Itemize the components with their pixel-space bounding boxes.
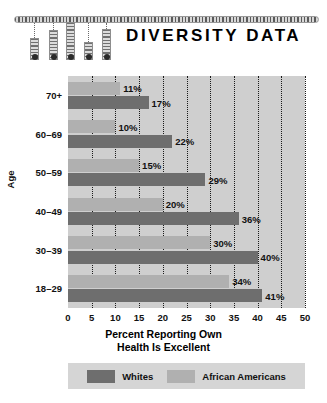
x-axis-tick-label: 35 [224, 312, 244, 323]
gridline [281, 76, 282, 308]
bar-whites [68, 96, 149, 109]
bar-value-label: 41% [265, 291, 284, 302]
bar-african-americans [68, 236, 210, 249]
gridline [305, 76, 306, 308]
x-axis-tick-label: 0 [58, 312, 78, 323]
x-axis-tick-label: 30 [200, 312, 220, 323]
bar-whites [68, 289, 262, 302]
decoration-dot [104, 54, 110, 60]
legend-swatch [167, 370, 195, 383]
bar-whites [68, 135, 172, 148]
y-axis-category-label: 40–49 [36, 206, 62, 217]
bar-value-label: 30% [213, 238, 232, 249]
y-axis-category-label: 30–39 [36, 245, 62, 256]
bar-african-americans [68, 120, 115, 133]
plot-area: 11%17%10%22%15%29%20%36%30%40%34%41% [68, 76, 305, 308]
gridline [258, 76, 259, 308]
decoration-dot [51, 54, 57, 60]
decoration-drop-line [53, 23, 55, 30]
chart-title-line: Health Is Excellent [0, 341, 327, 354]
chart-title: Percent Reporting OwnHealth Is Excellent [0, 328, 327, 353]
x-axis-tick-label: 20 [153, 312, 173, 323]
bar-value-label: 10% [118, 122, 137, 133]
gridline [92, 76, 93, 308]
bar-value-label: 40% [261, 252, 280, 263]
bar-african-americans [68, 82, 120, 95]
x-axis-tick-label: 50 [295, 312, 315, 323]
bar-african-americans [68, 198, 163, 211]
y-axis-category-label: 60–69 [36, 129, 62, 140]
y-axis-category-label: 18–29 [36, 283, 62, 294]
legend-swatch [87, 370, 115, 383]
gridline [115, 76, 116, 308]
y-axis-title: Age [5, 160, 16, 200]
bar-value-label: 22% [175, 136, 194, 147]
page-title: DIVERSITY DATA [126, 26, 301, 46]
decoration-drop-line [34, 23, 36, 38]
bar-value-label: 36% [242, 214, 261, 225]
x-axis-tick-label: 15 [129, 312, 149, 323]
gridline [163, 76, 164, 308]
bar-value-label: 15% [142, 160, 161, 171]
x-axis-tick-label: 25 [177, 312, 197, 323]
y-axis-category-label: 50–59 [36, 167, 62, 178]
bar-whites [68, 173, 205, 186]
bar-value-label: 17% [152, 98, 171, 109]
x-axis-tick-label: 40 [248, 312, 268, 323]
decoration-dot [32, 54, 38, 60]
decoration-dot [86, 54, 92, 60]
legend-item: Whites [87, 370, 153, 383]
bar-value-label: 34% [232, 276, 251, 287]
decoration-rail [14, 16, 319, 23]
decoration-dot [68, 54, 74, 60]
x-axis-tick-label: 45 [271, 312, 291, 323]
bar-whites [68, 251, 258, 264]
bar-whites [68, 212, 239, 225]
x-axis-tick-label: 10 [105, 312, 125, 323]
chart-title-line: Percent Reporting Own [0, 328, 327, 341]
legend-label: Whites [122, 371, 153, 382]
bar-value-label: 29% [208, 175, 227, 186]
gridline [187, 76, 188, 308]
legend-label: African Americans [202, 371, 286, 382]
y-axis-category-label: 70+ [46, 90, 62, 101]
gridline [139, 76, 140, 308]
bar-value-label: 20% [166, 199, 185, 210]
bar-african-americans [68, 275, 229, 288]
chart-legend: WhitesAfrican Americans [68, 363, 305, 389]
gridline [234, 76, 235, 308]
legend-item: African Americans [167, 370, 286, 383]
x-axis-tick-label: 5 [82, 312, 102, 323]
bar-african-americans [68, 159, 139, 172]
bar-value-label: 11% [123, 83, 142, 94]
decoration-drop-line [88, 23, 90, 42]
diversity-bar-chart: 70+60–6950–5940–4930–3918–29 Age 11%17%1… [0, 70, 327, 403]
gridline [210, 76, 211, 308]
